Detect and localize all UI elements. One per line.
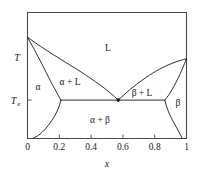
y-axis-eutectic-subscript: e	[18, 100, 21, 107]
x-tick-label-0.6: 0.6	[117, 142, 129, 152]
region-label-liquid: L	[105, 43, 111, 53]
alpha-solidus-curve	[28, 37, 61, 100]
region-label-alpha: α	[36, 82, 41, 92]
y-axis-label: T	[14, 52, 21, 63]
region-label-beta: β	[176, 98, 181, 108]
eutectic-point-marker	[116, 98, 120, 102]
x-axis-ticks	[28, 135, 187, 139]
x-axis-label: x	[104, 158, 110, 169]
region-label-beta-plus-liquid: β + L	[132, 88, 153, 98]
x-tick-label-0: 0	[25, 142, 30, 152]
region-label-alpha-plus-beta: α + β	[90, 115, 110, 125]
x-tick-label-0.8: 0.8	[149, 142, 161, 152]
phase-diagram-screenshot: T T e 0 0.2 0.4 0.6 0.8 1 x L α α + L β …	[0, 0, 202, 179]
region-label-alpha-plus-liquid: α + L	[60, 77, 81, 87]
x-tick-label-0.2: 0.2	[53, 142, 65, 152]
x-tick-label-0.4: 0.4	[85, 142, 97, 152]
alpha-solvus-curve	[33, 100, 61, 138]
x-tick-label-1: 1	[184, 142, 189, 152]
phase-diagram-figure: T T e 0 0.2 0.4 0.6 0.8 1 x L α α + L β …	[0, 0, 202, 179]
